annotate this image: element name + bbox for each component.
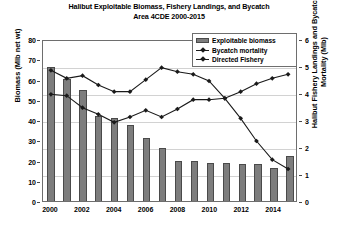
- tick-mark: [299, 175, 302, 176]
- chart-legend: Exploitable biomass Bycatch mortality Di…: [192, 33, 297, 67]
- x-axis-tick: 2008: [170, 206, 186, 213]
- data-point-marker: [175, 69, 180, 74]
- y-axis-left-tick: 40: [28, 118, 36, 125]
- legend-label-exploitable-biomass: Exploitable biomass: [212, 37, 276, 44]
- data-point-marker: [238, 89, 243, 94]
- tick-mark: [37, 162, 40, 163]
- data-point-marker: [128, 115, 133, 120]
- data-point-marker: [270, 76, 275, 81]
- tick-mark: [299, 202, 302, 203]
- x-axis-tick: 2006: [138, 206, 154, 213]
- legend-item-directed-fishery: Directed Fishery: [196, 55, 293, 64]
- line-diamond-swatch-icon: [196, 47, 209, 54]
- line-bycatch-mortality: [51, 68, 288, 169]
- x-axis-tick: 2002: [74, 206, 90, 213]
- legend-label-directed-fishery: Directed Fishery: [212, 56, 264, 63]
- y-axis-left-tick: 80: [28, 37, 36, 44]
- data-point-marker: [286, 167, 291, 172]
- y-axis-left-tick: 0: [32, 199, 36, 206]
- chart-title-line2: Area 4CDE 2000-2015: [133, 12, 205, 21]
- data-point-marker: [143, 108, 148, 113]
- legend-label-bycatch-mortality: Bycatch mortality: [212, 47, 267, 54]
- x-axis-tick: 2010: [202, 206, 218, 213]
- y-axis-right-tick: 6: [305, 37, 309, 44]
- legend-item-bycatch-mortality: Bycatch mortality: [196, 46, 293, 55]
- data-point-marker: [112, 120, 117, 125]
- y-axis-left-tick: 70: [28, 57, 36, 64]
- y-axis-right-tick: 0: [305, 199, 309, 206]
- data-point-marker: [96, 112, 101, 117]
- line-diamond-swatch-icon: [196, 56, 209, 63]
- tick-mark: [299, 94, 302, 95]
- tick-mark: [299, 121, 302, 122]
- tick-mark: [37, 81, 40, 82]
- tick-mark: [299, 67, 302, 68]
- tick-mark: [37, 60, 40, 61]
- data-point-marker: [175, 107, 180, 112]
- x-axis-tick: 2012: [233, 206, 249, 213]
- y-axis-right-tick: 1: [305, 172, 309, 179]
- tick-mark: [37, 101, 40, 102]
- tick-mark: [37, 202, 40, 203]
- y-axis-right-tick: 2: [305, 145, 309, 152]
- data-point-marker: [112, 89, 117, 94]
- data-point-marker: [64, 76, 69, 81]
- chart-title-line1: Halibut Exploitable Biomass, Fishery Lan…: [68, 2, 269, 11]
- x-axis-tick: 2014: [265, 206, 281, 213]
- y-axis-right-ticks: 0123456: [299, 0, 321, 228]
- x-axis-tick: 2000: [42, 206, 58, 213]
- data-point-marker: [191, 72, 196, 77]
- tick-mark: [299, 40, 302, 41]
- y-axis-left-tick: 50: [28, 97, 36, 104]
- y-axis-right-tick: 3: [305, 118, 309, 125]
- legend-item-exploitable-biomass: Exploitable biomass: [196, 36, 293, 45]
- chart-container: Halibut Exploitable Biomass, Fishery Lan…: [0, 0, 338, 228]
- y-axis-left-ticks: 01020304050607080: [16, 0, 40, 228]
- y-axis-left-tick: 20: [28, 158, 36, 165]
- tick-mark: [37, 182, 40, 183]
- line-directed-fishery: [51, 74, 288, 122]
- bar-swatch-icon: [196, 38, 209, 43]
- data-point-marker: [49, 68, 54, 73]
- data-point-marker: [191, 97, 196, 102]
- y-axis-right-tick: 4: [305, 91, 309, 98]
- tick-mark: [37, 141, 40, 142]
- tick-mark: [37, 40, 40, 41]
- tick-mark: [299, 148, 302, 149]
- y-axis-left-tick: 10: [28, 178, 36, 185]
- y-axis-left-tick: 60: [28, 77, 36, 84]
- data-point-marker: [96, 83, 101, 88]
- y-axis-right-tick: 5: [305, 64, 309, 71]
- data-point-marker: [80, 73, 85, 78]
- chart-title: Halibut Exploitable Biomass, Fishery Lan…: [0, 2, 338, 21]
- tick-mark: [37, 121, 40, 122]
- x-axis-ticks: 20002002200420062008201020122014: [42, 204, 297, 220]
- x-axis-tick: 2004: [106, 206, 122, 213]
- data-point-marker: [254, 81, 259, 86]
- data-point-marker: [207, 97, 212, 102]
- y-axis-left-tick: 30: [28, 138, 36, 145]
- data-point-marker: [286, 72, 291, 77]
- data-point-marker: [49, 92, 54, 97]
- data-point-marker: [159, 115, 164, 120]
